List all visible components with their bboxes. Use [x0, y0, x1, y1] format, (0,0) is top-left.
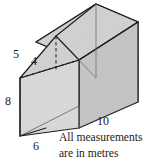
prism-figure: 5 4 8 6 10 All measurements are in metre…	[0, 0, 153, 163]
dimension-label-length: 10	[97, 115, 109, 127]
dimension-label-roof-height: 4	[31, 55, 37, 67]
caption-line-2: are in metres	[59, 146, 153, 162]
dimension-label-wall-height: 8	[5, 95, 11, 107]
dimension-label-slant-height: 5	[13, 48, 19, 60]
measurement-caption: All measurements are in metres	[59, 130, 153, 161]
dimension-label-width: 6	[33, 140, 39, 152]
caption-line-1: All measurements	[59, 130, 153, 146]
